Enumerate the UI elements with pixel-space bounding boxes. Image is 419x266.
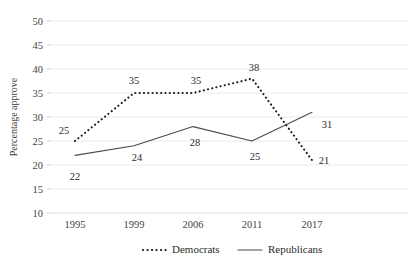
y-tick-marks: [47, 21, 50, 213]
line-chart: 50 45 40 35 30 25 20 15 10 Percentage ap…: [0, 0, 419, 266]
chart-container: 50 45 40 35 30 25 20 15 10 Percentage ap…: [0, 0, 419, 266]
point-label-rep-2017: 31: [322, 119, 333, 130]
point-label-rep-1999: 24: [132, 152, 143, 163]
democrats-point-labels: 25 35 35 38 21: [59, 62, 330, 166]
ytick-label-25: 25: [33, 136, 44, 147]
point-label-dem-2006: 35: [191, 75, 202, 86]
ytick-label-30: 30: [33, 112, 44, 123]
xtick-label-1999: 1999: [124, 219, 145, 230]
ytick-label-20: 20: [33, 160, 44, 171]
y-axis-title: Percentage approve: [8, 77, 19, 156]
y-tick-labels: 50 45 40 35 30 25 20 15 10: [33, 16, 44, 219]
legend-label-democrats: Democrats: [172, 243, 220, 255]
ytick-label-10: 10: [33, 208, 44, 219]
x-tick-labels: 1995 1999 2006 2011 2017: [65, 219, 323, 230]
ytick-label-15: 15: [33, 184, 44, 195]
xtick-label-2011: 2011: [242, 219, 263, 230]
xtick-label-2017: 2017: [302, 219, 323, 230]
series-line-republicans: [75, 112, 312, 155]
ytick-label-50: 50: [33, 16, 44, 27]
point-label-dem-1995: 25: [59, 125, 70, 136]
point-label-dem-2011: 38: [249, 62, 260, 73]
point-label-rep-2006: 28: [190, 137, 201, 148]
ytick-label-40: 40: [33, 64, 44, 75]
point-label-dem-2017: 21: [319, 155, 330, 166]
chart-legend: Democrats Republicans: [143, 243, 322, 255]
ytick-label-45: 45: [33, 40, 44, 51]
xtick-label-2006: 2006: [183, 219, 204, 230]
ytick-label-35: 35: [33, 88, 44, 99]
point-label-rep-2011: 25: [250, 151, 261, 162]
point-label-rep-1995: 22: [70, 171, 81, 182]
point-label-dem-1999: 35: [129, 75, 140, 86]
legend-label-republicans: Republicans: [268, 243, 322, 255]
xtick-label-1995: 1995: [65, 219, 86, 230]
gridlines: [50, 21, 408, 213]
